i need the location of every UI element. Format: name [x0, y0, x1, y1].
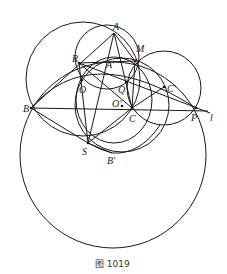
line-a-b	[31, 33, 114, 108]
label-b: B	[23, 103, 29, 114]
figure-caption: 图 1019	[95, 259, 130, 269]
label-b-prime: B'	[107, 155, 116, 166]
point-c-prime	[163, 86, 166, 89]
geometry-figure: A M R A' O Q O' C C' B P l S B' 图 1019	[0, 0, 227, 274]
label-r: R	[71, 53, 78, 64]
label-p: P	[190, 112, 197, 123]
point-c	[131, 107, 134, 110]
point-p	[195, 107, 198, 110]
label-a: A	[112, 21, 120, 32]
line-s-b-prime	[88, 143, 112, 153]
label-q: Q	[118, 84, 126, 95]
point-b	[30, 107, 33, 110]
line-a-s	[88, 33, 114, 143]
label-a-prime: A'	[105, 59, 115, 70]
label-m: M	[135, 43, 145, 54]
label-l: l	[210, 112, 213, 123]
point-o	[81, 79, 84, 82]
label-c-prime: C'	[167, 83, 177, 94]
label-o-prime: O'	[112, 98, 122, 109]
point-q	[125, 81, 128, 84]
point-m	[134, 60, 137, 63]
circle-a-r-m-q	[75, 25, 139, 89]
point-s	[87, 142, 90, 145]
label-s: S	[82, 146, 87, 157]
label-c: C	[129, 113, 136, 124]
label-o: O	[79, 84, 86, 95]
